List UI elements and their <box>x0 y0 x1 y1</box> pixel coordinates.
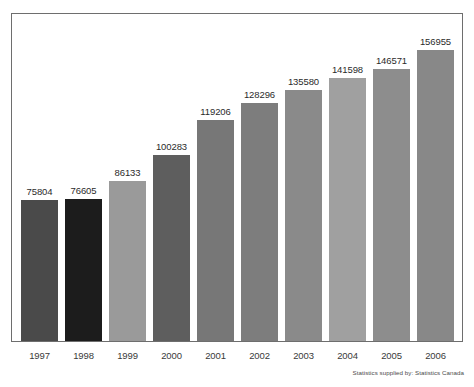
source-attribution: Statistics supplied by: Statistics Canad… <box>353 369 464 376</box>
bar-group: 119206 <box>197 14 234 341</box>
bar <box>285 90 322 341</box>
bar-group: 76605 <box>65 14 102 341</box>
bar-value-label: 146571 <box>376 56 407 66</box>
bar-value-label: 128296 <box>244 90 275 100</box>
bars-container: 7580476605861331002831192061282961355801… <box>12 14 462 341</box>
bar-value-label: 156955 <box>420 37 451 47</box>
bar-value-label: 75804 <box>27 187 53 197</box>
bar <box>329 78 366 341</box>
x-axis-tick-label: 2001 <box>197 350 234 361</box>
bar-group: 75804 <box>21 14 58 341</box>
x-axis-tick-label: 2002 <box>241 350 278 361</box>
bar-value-label: 135580 <box>288 77 319 87</box>
bar-group: 146571 <box>373 14 410 341</box>
x-axis-labels: 1997199819992000200120022003200420052006 <box>12 350 462 361</box>
bar-group: 100283 <box>153 14 190 341</box>
bar-value-label: 100283 <box>156 142 187 152</box>
x-axis-tick-label: 2000 <box>153 350 190 361</box>
bar-group: 135580 <box>285 14 322 341</box>
x-axis-tick-label: 1999 <box>109 350 146 361</box>
bar-group: 86133 <box>109 14 146 341</box>
bar <box>241 103 278 341</box>
x-axis-tick-label: 2004 <box>329 350 366 361</box>
x-axis-tick-label: 1998 <box>65 350 102 361</box>
x-axis-tick-label: 2003 <box>285 350 322 361</box>
bar-chart: 7580476605861331002831192061282961355801… <box>0 0 474 387</box>
bar-value-label: 119206 <box>200 107 230 117</box>
bar <box>373 69 410 341</box>
bar <box>109 181 146 341</box>
x-axis-tick-label: 1997 <box>21 350 58 361</box>
bar <box>197 120 234 341</box>
bar <box>21 200 58 341</box>
bar-group: 128296 <box>241 14 278 341</box>
bar <box>65 199 102 341</box>
x-axis-tick-label: 2006 <box>417 350 454 361</box>
bar <box>153 155 190 341</box>
bar-group: 156955 <box>417 14 454 341</box>
bar-group: 141598 <box>329 14 366 341</box>
bar-value-label: 141598 <box>332 65 363 75</box>
bar-value-label: 76605 <box>71 186 97 196</box>
bar <box>417 50 454 341</box>
bar-value-label: 86133 <box>115 168 141 178</box>
x-axis-tick-label: 2005 <box>373 350 410 361</box>
